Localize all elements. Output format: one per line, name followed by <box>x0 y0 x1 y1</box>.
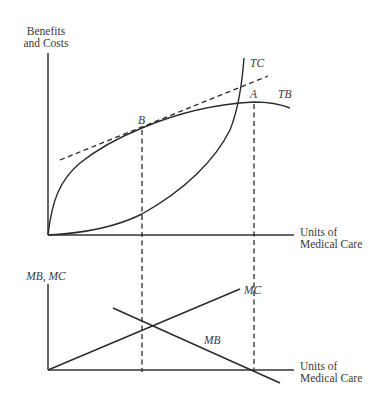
benefit-cost-diagram: Benefits and Costs Units of Medical Care… <box>0 0 389 407</box>
tc-curve <box>48 58 244 235</box>
top-y-axis-label-line1: Benefits <box>27 25 66 37</box>
top-panel: Benefits and Costs Units of Medical Care… <box>23 25 362 372</box>
mc-label: MC <box>243 284 262 296</box>
bottom-x-axis-label-line2: Medical Care <box>300 372 362 384</box>
tangent-line <box>60 76 268 160</box>
mb-line <box>113 308 280 383</box>
bottom-panel: MB, MC Units of Medical Care MC MB <box>25 270 362 384</box>
top-y-axis-label-line2: and Costs <box>23 37 69 49</box>
top-x-axis-label-line1: Units of <box>300 226 338 238</box>
tc-label: TC <box>250 57 264 69</box>
point-a-label: A <box>249 88 258 100</box>
top-x-axis-label-line2: Medical Care <box>300 238 362 250</box>
mc-line <box>48 289 240 370</box>
point-b-label: B <box>138 114 145 126</box>
mb-label: MB <box>203 334 221 346</box>
tb-label: TB <box>278 88 291 100</box>
bottom-x-axis-label-line1: Units of <box>300 360 338 372</box>
bottom-y-axis-label: MB, MC <box>25 270 66 283</box>
